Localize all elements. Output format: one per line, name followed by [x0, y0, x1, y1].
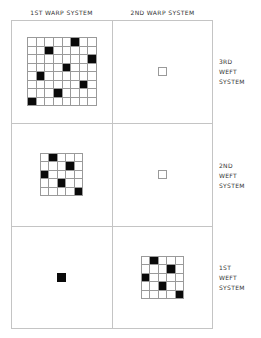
empty-cell — [88, 98, 97, 107]
empty-cell — [176, 282, 184, 290]
filled-cell — [88, 55, 97, 64]
empty-cell — [49, 188, 57, 196]
empty-cell — [142, 291, 150, 299]
row-label-1st-weft: 1ST WEFT SYSTEM — [219, 263, 245, 293]
filled-cell — [37, 72, 46, 81]
row-label-line: 1ST — [219, 263, 245, 273]
empty-cell — [176, 257, 184, 265]
empty-square-warp2-weft2 — [158, 170, 167, 179]
filled-cell — [45, 47, 54, 56]
row-label-line: 3RD — [219, 57, 245, 67]
empty-cell — [75, 162, 83, 170]
empty-cell — [37, 47, 46, 56]
empty-cell — [28, 38, 37, 47]
filled-cell — [167, 265, 175, 273]
filled-cell — [176, 291, 184, 299]
empty-cell — [63, 38, 72, 47]
empty-cell — [71, 89, 80, 98]
row-divider-2 — [11, 226, 213, 227]
empty-cell — [88, 64, 97, 73]
empty-cell — [150, 265, 158, 273]
empty-cell — [58, 171, 66, 179]
row-label-line: 2ND — [219, 161, 245, 171]
column-header-2nd-warp: 2ND WARP SYSTEM — [112, 9, 213, 17]
empty-cell — [66, 154, 74, 162]
empty-cell — [176, 274, 184, 282]
empty-cell — [49, 162, 57, 170]
filled-cell — [28, 98, 37, 107]
empty-cell — [159, 291, 167, 299]
empty-cell — [54, 38, 63, 47]
filled-cell — [142, 274, 150, 282]
empty-cell — [45, 98, 54, 107]
row-label-line: SYSTEM — [219, 283, 245, 293]
filled-cell — [159, 282, 167, 290]
empty-cell — [167, 274, 175, 282]
empty-cell — [54, 81, 63, 90]
empty-cell — [28, 89, 37, 98]
empty-cell — [80, 98, 89, 107]
filled-cell — [54, 89, 63, 98]
empty-cell — [71, 81, 80, 90]
empty-cell — [71, 47, 80, 56]
empty-cell — [45, 81, 54, 90]
empty-cell — [63, 47, 72, 56]
empty-cell — [75, 179, 83, 187]
empty-cell — [45, 72, 54, 81]
empty-cell — [37, 64, 46, 73]
empty-cell — [167, 282, 175, 290]
empty-cell — [150, 274, 158, 282]
filled-cell — [49, 154, 57, 162]
row-label-line: WEFT — [219, 273, 245, 283]
empty-square-warp2-weft3 — [158, 67, 167, 76]
empty-cell — [41, 154, 49, 162]
row-divider-1 — [11, 123, 213, 124]
empty-cell — [45, 89, 54, 98]
empty-cell — [63, 72, 72, 81]
empty-cell — [28, 64, 37, 73]
empty-cell — [63, 89, 72, 98]
row-label-3rd-weft: 3RD WEFT SYSTEM — [219, 57, 245, 87]
empty-cell — [49, 179, 57, 187]
empty-cell — [159, 265, 167, 273]
empty-cell — [41, 179, 49, 187]
empty-cell — [41, 162, 49, 170]
empty-cell — [176, 265, 184, 273]
empty-cell — [66, 179, 74, 187]
empty-cell — [80, 89, 89, 98]
empty-cell — [45, 55, 54, 64]
filled-cell — [58, 179, 66, 187]
empty-cell — [142, 257, 150, 265]
empty-cell — [54, 64, 63, 73]
empty-cell — [28, 81, 37, 90]
empty-cell — [88, 38, 97, 47]
empty-cell — [80, 64, 89, 73]
filled-cell — [150, 257, 158, 265]
empty-cell — [167, 257, 175, 265]
empty-cell — [71, 72, 80, 81]
empty-cell — [58, 162, 66, 170]
empty-cell — [142, 282, 150, 290]
filled-cell — [66, 162, 74, 170]
empty-cell — [80, 38, 89, 47]
empty-cell — [63, 98, 72, 107]
empty-cell — [80, 55, 89, 64]
empty-cell — [80, 47, 89, 56]
empty-cell — [63, 81, 72, 90]
empty-cell — [45, 64, 54, 73]
empty-cell — [88, 47, 97, 56]
filled-cell — [71, 38, 80, 47]
filled-cell — [75, 188, 83, 196]
empty-cell — [37, 89, 46, 98]
empty-cell — [66, 188, 74, 196]
empty-cell — [63, 55, 72, 64]
empty-cell — [75, 171, 83, 179]
empty-cell — [167, 291, 175, 299]
empty-cell — [28, 47, 37, 56]
empty-cell — [75, 154, 83, 162]
empty-cell — [80, 72, 89, 81]
empty-cell — [37, 38, 46, 47]
row-label-line: WEFT — [219, 67, 245, 77]
empty-cell — [58, 188, 66, 196]
row-label-2nd-weft: 2ND WEFT SYSTEM — [219, 161, 245, 191]
